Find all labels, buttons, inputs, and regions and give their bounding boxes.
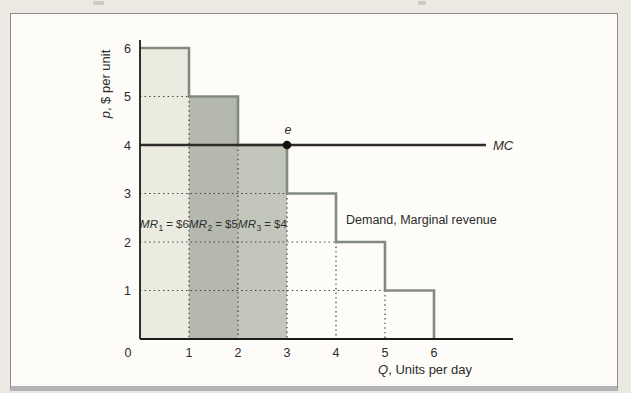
x-axis-title: Q, Units per day — [378, 362, 472, 377]
y-tick-6: 6 — [124, 42, 131, 56]
x-tick-1: 1 — [186, 346, 193, 360]
y-tick-3: 3 — [124, 187, 131, 201]
shaded-region-mr3 — [238, 145, 287, 339]
x-tick-6: 6 — [431, 346, 438, 360]
y-axis-title: p, $ per unit — [98, 49, 113, 119]
cropped-text-remnant — [418, 1, 426, 5]
x-tick-5: 5 — [382, 346, 389, 360]
y-tick-5: 5 — [124, 90, 131, 104]
demand-curve-label: Demand, Marginal revenue — [346, 213, 497, 227]
textbook-page: e 6 5 4 3 2 1 0 1 2 3 4 5 6 MR1= $6 MR2=… — [0, 0, 631, 393]
cropped-text-remnant — [93, 1, 104, 5]
x-tick-0: 0 — [125, 346, 132, 360]
x-tick-2: 2 — [235, 346, 242, 360]
x-tick-3: 3 — [284, 346, 291, 360]
y-tick-1: 1 — [124, 284, 131, 298]
point-e-marker — [283, 141, 292, 150]
y-tick-4: 4 — [124, 139, 131, 153]
x-tick-4: 4 — [333, 346, 340, 360]
chart: e 6 5 4 3 2 1 0 1 2 3 4 5 6 MR1= $6 MR2=… — [11, 14, 617, 386]
figure-frame: e 6 5 4 3 2 1 0 1 2 3 4 5 6 MR1= $6 MR2=… — [10, 13, 618, 391]
point-e-label: e — [285, 123, 292, 137]
mc-line-label: MC — [493, 138, 514, 153]
y-tick-2: 2 — [124, 236, 131, 250]
